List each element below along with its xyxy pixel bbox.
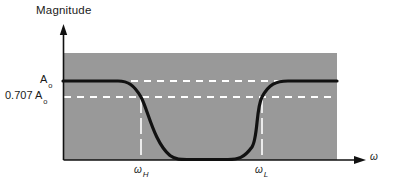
a0-main-text: A xyxy=(40,73,47,85)
band-stop-filter-chart xyxy=(0,0,397,190)
y-tick-label-a0: Ao xyxy=(40,74,52,88)
a0-subscript: o xyxy=(48,81,52,90)
chart-title: Magnitude xyxy=(36,5,92,17)
plot-area-background xyxy=(63,53,337,160)
omega-l-main-text: ω xyxy=(255,164,263,175)
x-tick-label-omega-l: ωL xyxy=(255,165,267,175)
y-axis-arrowhead xyxy=(60,24,67,35)
omega-h-main-text: ω xyxy=(134,164,142,175)
x-axis-arrowhead xyxy=(354,156,366,164)
cutoff-main-text: 0.707 A xyxy=(5,89,42,101)
x-axis-label: ω xyxy=(370,152,378,162)
figure-container: Magnitude Ao 0.707 Ao ωH ωL ω xyxy=(0,0,397,190)
x-tick-label-omega-h: ωH xyxy=(134,165,148,175)
omega-h-subscript: H xyxy=(143,170,149,179)
cutoff-subscript: o xyxy=(43,97,47,106)
omega-l-subscript: L xyxy=(264,170,268,179)
y-tick-label-cutoff: 0.707 Ao xyxy=(5,90,47,104)
